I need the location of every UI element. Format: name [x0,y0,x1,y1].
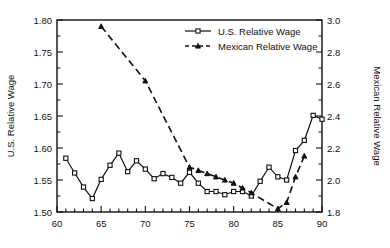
data-point-us [134,159,138,163]
x-tick-label: 70 [140,218,151,229]
y2-tick-label: 3.0 [327,15,340,26]
x-tick-label: 60 [52,218,63,229]
data-point-us [152,177,156,181]
data-point-us [196,181,200,185]
series-line-us [66,115,322,198]
data-point-us [99,177,103,181]
data-point-us [90,196,94,200]
data-point-us [311,113,315,117]
data-point-us [214,189,218,193]
data-point-us [143,167,147,171]
data-point-us [223,193,227,197]
data-point-us [320,117,324,121]
data-point-us [73,171,77,175]
data-point-us [170,175,174,179]
legend-label-0: U.S. Relative Wage [218,26,301,37]
y-tick-label: 1.65 [34,111,53,122]
x-tick-label: 75 [184,218,195,229]
data-point-us [161,172,165,176]
data-point-mexican [187,165,192,170]
data-point-us [276,175,280,179]
y-tick-label: 1.75 [34,47,53,58]
x-tick-label: 90 [317,218,328,229]
data-point-us [179,181,183,185]
data-point-us [81,185,85,189]
data-point-mexican [240,185,245,190]
series-line-mexican [101,26,304,208]
data-point-mexican [284,200,289,205]
y-tick-label: 1.55 [34,175,53,186]
y2-axis-title: Mexican Relative Wage [372,66,383,165]
x-tick-label: 80 [228,218,239,229]
data-point-mexican [196,168,201,173]
y-tick-label: 1.50 [34,207,53,218]
y-tick-label: 1.60 [34,143,53,154]
data-point-us [232,189,236,193]
data-point-us [267,165,271,169]
y2-tick-label: 2.0 [327,175,340,186]
y2-tick-label: 2.4 [327,111,340,122]
legend-marker-1 [196,43,201,48]
y-tick-label: 1.70 [34,79,53,90]
data-point-mexican [214,174,219,179]
data-point-us [302,138,306,142]
chart-figure: 606570758085901.501.551.601.651.701.751.… [0,0,390,248]
data-point-mexican [302,153,307,158]
data-point-mexican [293,174,298,179]
y-axis-title: U.S. Relative Wage [5,75,16,158]
y2-tick-label: 2.8 [327,47,340,58]
data-point-mexican [205,171,210,176]
data-point-us [285,178,289,182]
y-tick-label: 1.80 [34,15,53,26]
y2-tick-label: 2.2 [327,143,340,154]
data-point-mexican [99,24,104,29]
x-tick-label: 65 [96,218,107,229]
data-point-us [64,156,68,160]
data-point-us [108,163,112,167]
data-point-us [126,170,130,174]
data-point-mexican [231,181,236,186]
y2-tick-label: 1.8 [327,207,340,218]
data-point-us [187,170,191,174]
data-point-us [205,189,209,193]
x-tick-label: 85 [273,218,284,229]
data-point-us [258,179,262,183]
data-point-us [117,151,121,155]
legend-marker-0 [196,29,200,33]
legend-label-1: Mexican Relative Wage [218,41,317,52]
data-point-mexican [249,190,254,195]
y2-tick-label: 2.6 [327,79,340,90]
relative-wage-line-chart: 606570758085901.501.551.601.651.701.751.… [0,0,390,248]
data-point-us [293,148,297,152]
data-point-mexican [222,177,227,182]
